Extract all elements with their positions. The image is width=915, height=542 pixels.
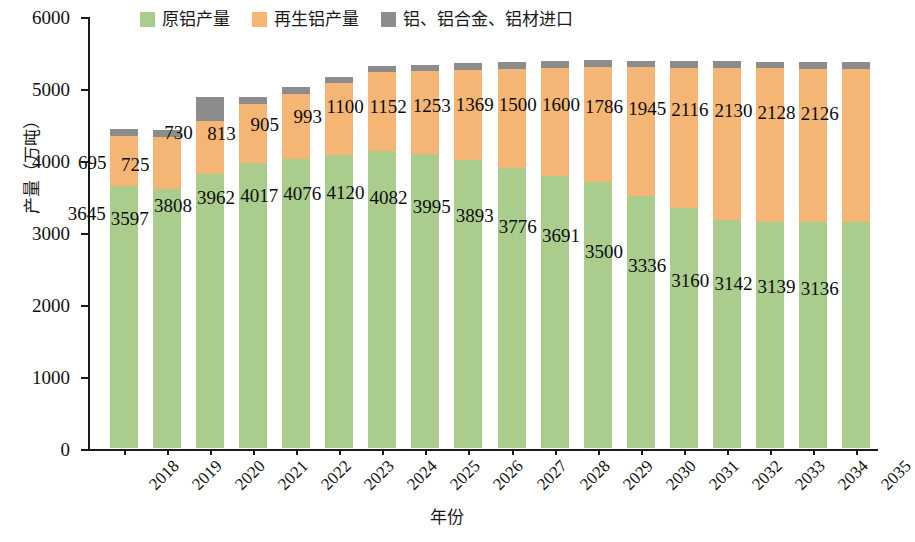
bar-segment-primary[interactable]: [498, 168, 526, 448]
bar-segment-recycled[interactable]: [756, 68, 784, 221]
x-axis-tick: [253, 449, 255, 455]
bar-segment-recycled[interactable]: [584, 67, 612, 182]
bar-group[interactable]: [627, 16, 655, 448]
bar-value-label-recycled: 993: [294, 107, 323, 126]
x-axis-tick: [813, 449, 815, 455]
bar-segment-primary[interactable]: [153, 189, 181, 448]
bar-group[interactable]: [153, 16, 181, 448]
bar-group[interactable]: [196, 16, 224, 448]
bar-segment-primary[interactable]: [584, 182, 612, 448]
bar-segment-primary[interactable]: [756, 222, 784, 448]
bar-segment-primary[interactable]: [670, 208, 698, 448]
bar-segment-recycled[interactable]: [454, 70, 482, 160]
bar-value-label-primary: 4082: [370, 188, 408, 207]
bar-group[interactable]: [454, 16, 482, 448]
bar-value-label-recycled: 695: [78, 153, 107, 172]
bar-value-label-primary: 3776: [499, 217, 537, 236]
bar-group[interactable]: [282, 16, 310, 448]
bar-segment-import[interactable]: [498, 62, 526, 69]
bar-value-label-recycled: 1253: [413, 96, 451, 115]
bar-group[interactable]: [756, 16, 784, 448]
bar-group[interactable]: [713, 16, 741, 448]
bar-segment-recycled[interactable]: [713, 68, 741, 220]
bar-segment-primary[interactable]: [627, 196, 655, 448]
bar-segment-import[interactable]: [670, 61, 698, 68]
bar-segment-primary[interactable]: [713, 220, 741, 448]
bar-segment-import[interactable]: [713, 61, 741, 68]
bar-segment-import[interactable]: [541, 61, 569, 68]
bar-group[interactable]: [411, 16, 439, 448]
bar-segment-import[interactable]: [110, 129, 138, 135]
x-axis-tick: [382, 449, 384, 455]
x-axis-tick: [124, 449, 126, 455]
bar-group[interactable]: [110, 16, 138, 448]
bar-value-label-primary: 3995: [413, 197, 451, 216]
bar-value-label-primary: 3893: [456, 206, 494, 225]
bar-segment-import[interactable]: [196, 97, 224, 121]
bar-segment-recycled[interactable]: [541, 68, 569, 176]
x-axis-tick-label: 2026: [490, 457, 526, 493]
x-axis-tick: [425, 449, 427, 455]
bar-group[interactable]: [325, 16, 353, 448]
bar-segment-import[interactable]: [627, 61, 655, 68]
x-axis-title: 年份: [0, 503, 893, 528]
bar-group[interactable]: [670, 16, 698, 448]
bar-segment-import[interactable]: [282, 87, 310, 93]
x-axis-tick-label: 2022: [318, 457, 354, 493]
bar-group[interactable]: [799, 16, 827, 448]
bar-segment-import[interactable]: [239, 97, 267, 105]
x-axis-tick-label: 2019: [189, 457, 225, 493]
bar-segment-import[interactable]: [799, 62, 827, 69]
bar-segment-recycled[interactable]: [627, 67, 655, 196]
bar-segment-recycled[interactable]: [670, 68, 698, 208]
bar-value-label-primary: 3500: [585, 242, 623, 261]
y-axis-tick-label: 2000: [32, 295, 70, 317]
bar-segment-recycled[interactable]: [842, 69, 870, 222]
bar-segment-recycled[interactable]: [498, 69, 526, 168]
x-axis-tick: [641, 449, 643, 455]
bar-segment-import[interactable]: [842, 62, 870, 69]
bar-value-label-recycled: 1369: [456, 95, 494, 114]
bar-segment-primary[interactable]: [196, 174, 224, 448]
bar-value-label-recycled: 725: [121, 155, 150, 174]
x-axis-tick-label: 2029: [620, 457, 656, 493]
bar-segment-recycled[interactable]: [153, 137, 181, 189]
bar-value-label-recycled: 813: [207, 124, 236, 143]
bar-value-label-recycled: 1600: [542, 95, 580, 114]
bar-segment-primary[interactable]: [541, 176, 569, 448]
bar-segment-import[interactable]: [368, 66, 396, 72]
y-axis-tick-label: 4000: [32, 151, 70, 173]
bar-segment-primary[interactable]: [842, 222, 870, 448]
bar-value-label-recycled: 730: [164, 123, 193, 142]
bar-value-label-recycled: 1152: [370, 97, 407, 116]
bar-group[interactable]: [584, 16, 612, 448]
x-axis-tick: [684, 449, 686, 455]
bar-value-label-primary: 3139: [758, 277, 796, 296]
x-axis-tick-label: 2034: [835, 457, 871, 493]
bar-group[interactable]: [842, 16, 870, 448]
bar-value-label-recycled: 905: [250, 115, 279, 134]
x-axis-tick: [210, 449, 212, 455]
bar-segment-import[interactable]: [411, 65, 439, 71]
x-axis-tick: [512, 449, 514, 455]
bar-segment-import[interactable]: [454, 63, 482, 70]
bar-value-label-primary: 4076: [283, 184, 321, 203]
y-axis-tick: 3000: [81, 233, 88, 235]
bar-segment-import[interactable]: [756, 62, 784, 69]
bar-group[interactable]: [239, 16, 267, 448]
y-axis-line: [88, 17, 90, 451]
bar-segment-import[interactable]: [584, 60, 612, 68]
x-axis-tick-label: 2018: [146, 457, 182, 493]
bar-segment-recycled[interactable]: [799, 69, 827, 222]
bar-group[interactable]: [368, 16, 396, 448]
bar-segment-primary[interactable]: [799, 222, 827, 448]
bar-value-label-recycled: 1100: [326, 97, 363, 116]
bar-value-label-primary: 4017: [240, 186, 278, 205]
bar-segment-recycled[interactable]: [325, 83, 353, 154]
x-axis-tick-label: 2030: [663, 457, 699, 493]
x-axis-tick: [167, 449, 169, 455]
bar-value-label-recycled: 1786: [585, 97, 623, 116]
bar-segment-import[interactable]: [325, 77, 353, 83]
bar-segment-primary[interactable]: [454, 160, 482, 448]
